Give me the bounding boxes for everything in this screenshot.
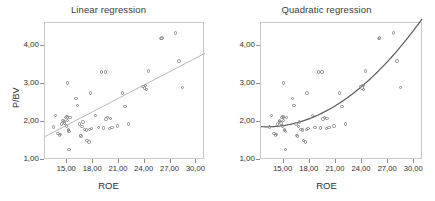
scatter-point	[305, 91, 308, 94]
scatter-point	[123, 105, 126, 108]
scatter-point	[364, 69, 367, 72]
regression-line	[45, 23, 205, 160]
scatter-point	[332, 124, 335, 127]
scatter-point	[66, 119, 69, 122]
y-axis-tick-label: 3,00	[222, 78, 255, 87]
scatter-point	[67, 130, 70, 133]
scatter-point	[306, 127, 309, 130]
regression-curve	[261, 23, 423, 160]
scatter-point	[127, 122, 130, 125]
scatter-point	[296, 134, 299, 137]
x-axis-tick-mark	[118, 159, 119, 163]
scatter-point	[327, 126, 330, 129]
y-axis-tick-mark	[256, 83, 260, 84]
x-axis-label: ROE	[0, 180, 217, 191]
scatter-point	[54, 114, 57, 117]
scatter-point	[284, 130, 287, 133]
scatter-point	[298, 120, 301, 123]
x-axis-tick-mark	[361, 159, 362, 163]
panel-title: Quadratic regression	[218, 4, 435, 15]
scatter-point	[52, 125, 55, 128]
x-axis-tick-mark	[309, 159, 310, 163]
scatter-point	[102, 126, 105, 129]
x-axis-label: ROE	[218, 180, 435, 191]
scatter-point	[340, 105, 343, 108]
x-axis-tick-mark	[144, 159, 145, 163]
scatter-point	[147, 69, 150, 72]
scatter-point	[89, 91, 92, 94]
scatter-point	[87, 140, 90, 143]
scatter-point	[392, 31, 395, 34]
scatter-point	[319, 126, 322, 129]
scatter-point	[378, 36, 381, 39]
y-axis-tick-mark	[256, 121, 260, 122]
x-axis-tick-mark	[66, 159, 67, 163]
scatter-point	[344, 122, 347, 125]
figure-canvas: Linear regression P/BV ROE 1,002,003,004…	[0, 0, 435, 201]
x-axis-tick-mark	[335, 159, 336, 163]
scatter-point	[285, 116, 288, 119]
scatter-point	[68, 116, 71, 119]
y-axis-tick-mark	[40, 83, 44, 84]
plot-area	[260, 22, 422, 159]
y-axis-tick-label: 1,00	[222, 154, 255, 163]
y-axis-tick-mark	[40, 159, 44, 160]
scatter-point	[121, 91, 124, 94]
scatter-point	[79, 134, 82, 137]
scatter-point	[110, 126, 113, 129]
y-axis-tick-label: 1,00	[6, 154, 39, 163]
plot-area	[44, 22, 204, 159]
scatter-point	[313, 126, 316, 129]
scatter-point	[81, 120, 84, 123]
scatter-point	[320, 70, 323, 73]
x-axis-tick-mark	[283, 159, 284, 163]
x-axis-tick-label: 30,00	[179, 164, 211, 173]
x-axis-tick-label: 30,00	[397, 164, 429, 173]
y-axis-tick-mark	[40, 121, 44, 122]
scatter-point	[304, 140, 307, 143]
y-axis-tick-label: 3,00	[6, 78, 39, 87]
scatter-point	[160, 36, 163, 39]
y-axis-label: P/BV	[11, 87, 21, 108]
scatter-point	[395, 59, 398, 62]
y-axis-tick-mark	[40, 45, 44, 46]
y-axis-tick-label: 2,00	[222, 116, 255, 125]
scatter-point	[109, 117, 112, 120]
scatter-point	[338, 91, 341, 94]
x-axis-tick-mark	[170, 159, 171, 163]
scatter-point	[325, 117, 328, 120]
panel-title: Linear regression	[0, 4, 217, 15]
y-axis-tick-mark	[256, 159, 260, 160]
y-axis-tick-label: 4,00	[6, 40, 39, 49]
y-axis-tick-mark	[256, 45, 260, 46]
scatter-point	[292, 104, 295, 107]
scatter-point	[59, 133, 62, 136]
y-axis-tick-label: 4,00	[222, 40, 255, 49]
panel-quadratic-regression: Quadratic regression ROE 1,002,003,004,0…	[218, 0, 435, 201]
panel-linear-regression: Linear regression P/BV ROE 1,002,003,004…	[0, 0, 217, 201]
x-axis-tick-mark	[195, 159, 196, 163]
y-axis-tick-label: 2,00	[6, 116, 39, 125]
scatter-point	[361, 84, 364, 87]
x-axis-tick-mark	[413, 159, 414, 163]
scatter-point	[66, 81, 69, 84]
scatter-point	[104, 70, 107, 73]
scatter-point	[116, 124, 119, 127]
x-axis-tick-mark	[387, 159, 388, 163]
scatter-point	[177, 59, 180, 62]
x-axis-tick-mark	[92, 159, 93, 163]
